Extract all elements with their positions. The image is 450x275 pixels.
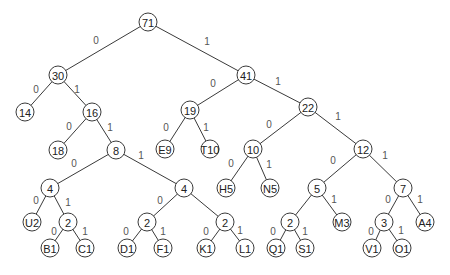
- edge-bit-label: 1: [237, 225, 243, 236]
- node-label: 10: [247, 144, 259, 156]
- tree-node: 2: [216, 213, 234, 231]
- node-label: S1: [298, 243, 311, 255]
- edge-bit-label: 0: [203, 226, 209, 237]
- node-label: 3: [381, 217, 387, 229]
- tree-node: T10: [201, 140, 220, 158]
- tree-node: N5: [261, 179, 279, 197]
- edge-bit-label: 1: [335, 111, 341, 122]
- node-label: U2: [25, 217, 39, 229]
- tree-edge: [116, 150, 184, 188]
- node-label: 19: [184, 105, 196, 117]
- node-label: 41: [240, 70, 252, 82]
- edge-bit-label: 0: [210, 78, 216, 89]
- node-label: 14: [19, 107, 31, 119]
- tree-node: 5: [308, 179, 326, 197]
- tree-node: 14: [16, 103, 34, 121]
- tree-node: A4: [416, 213, 434, 231]
- tree-node: M3: [333, 213, 351, 231]
- edge-bit-label: 0: [368, 226, 374, 237]
- node-label: V1: [365, 243, 378, 255]
- node-label: 2: [144, 217, 150, 229]
- huffman-tree-diagram: 0101010101010101010101010101010101 71304…: [0, 0, 450, 275]
- tree-node: 2: [59, 213, 77, 231]
- node-label: 12: [357, 144, 369, 156]
- tree-node: 30: [49, 66, 67, 84]
- edge-bit-label: 0: [330, 155, 336, 166]
- edge-bit-label: 1: [204, 36, 210, 47]
- node-label: 7: [400, 183, 406, 195]
- edge-bit-label: 0: [266, 119, 272, 130]
- node-label: N5: [263, 183, 277, 195]
- edge-bit-label: 1: [65, 197, 71, 208]
- node-label: 22: [302, 102, 314, 114]
- edge-bit-label: 1: [302, 226, 308, 237]
- tree-node: 16: [83, 103, 101, 121]
- edge-bit-label: 0: [123, 226, 129, 237]
- edge-bit-label: 1: [382, 150, 388, 161]
- edge-bit-label: 1: [275, 76, 281, 87]
- edge-bit-label: 0: [93, 35, 99, 46]
- edge-bit-label: 1: [266, 159, 272, 170]
- tree-edge: [190, 75, 246, 110]
- edge-bit-label: 0: [163, 122, 169, 133]
- node-label: 2: [287, 217, 293, 229]
- edge-bit-label: 1: [203, 122, 209, 133]
- tree-node: L1: [236, 239, 254, 257]
- tree-node: E9: [156, 140, 174, 158]
- node-label: 4: [181, 183, 187, 195]
- node-label: 8: [113, 145, 119, 157]
- node-label: L1: [239, 243, 251, 255]
- edge-bit-label: 1: [82, 226, 88, 237]
- edge-labels-layer: 0101010101010101010101010101010101: [33, 35, 423, 237]
- tree-node: 10: [244, 140, 262, 158]
- tree-node: F1: [154, 239, 172, 257]
- tree-node: C1: [76, 239, 94, 257]
- node-label: 71: [142, 17, 154, 29]
- tree-node: 8: [107, 141, 125, 159]
- tree-node: Q1: [267, 239, 285, 257]
- tree-node: 2: [281, 213, 299, 231]
- node-label: C1: [78, 243, 92, 255]
- tree-node: 19: [181, 101, 199, 119]
- edge-bit-label: 0: [385, 194, 391, 205]
- tree-node: 2: [138, 213, 156, 231]
- node-label: 2: [222, 217, 228, 229]
- node-label: F1: [157, 243, 170, 255]
- edge-bit-label: 1: [417, 194, 423, 205]
- node-label: E9: [158, 144, 171, 156]
- tree-node: 4: [41, 179, 59, 197]
- edge-bit-label: 0: [51, 226, 57, 237]
- node-label: O1: [395, 243, 410, 255]
- edge-bit-label: 0: [33, 195, 39, 206]
- node-label: Q1: [269, 243, 284, 255]
- node-label: K1: [199, 243, 212, 255]
- tree-node: 7: [394, 179, 412, 197]
- nodes-layer: 71304114161922188E9T10101244H5N557U22222…: [16, 13, 434, 257]
- edge-bit-label: 1: [160, 226, 166, 237]
- tree-edge: [148, 22, 246, 75]
- edge-bit-label: 0: [71, 158, 77, 169]
- node-label: 30: [52, 70, 64, 82]
- edge-bit-label: 1: [331, 194, 337, 205]
- node-label: 2: [65, 217, 71, 229]
- node-label: B1: [43, 243, 56, 255]
- tree-node: 3: [375, 213, 393, 231]
- tree-node: 12: [354, 140, 372, 158]
- node-label: A4: [418, 217, 431, 229]
- tree-edge: [58, 22, 148, 75]
- node-label: T10: [201, 144, 220, 156]
- edge-bit-label: 0: [228, 158, 234, 169]
- node-label: H5: [219, 183, 233, 195]
- tree-svg: 0101010101010101010101010101010101 71304…: [0, 0, 450, 275]
- node-label: 16: [86, 107, 98, 119]
- tree-edge: [253, 107, 308, 149]
- edge-bit-label: 0: [66, 121, 72, 132]
- tree-node: V1: [363, 239, 381, 257]
- tree-node: U2: [23, 213, 41, 231]
- edge-bit-label: 0: [33, 84, 39, 95]
- tree-node: 41: [237, 66, 255, 84]
- edge-bit-label: 1: [74, 84, 80, 95]
- node-label: 4: [47, 183, 53, 195]
- tree-node: D1: [118, 239, 136, 257]
- edge-bit-label: 1: [138, 150, 144, 161]
